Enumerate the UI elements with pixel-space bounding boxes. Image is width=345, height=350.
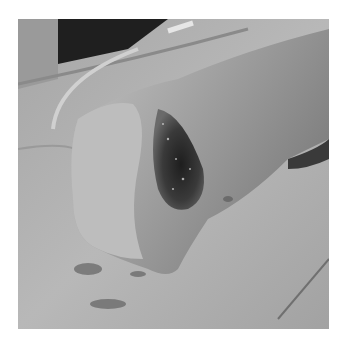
photo-illustration bbox=[18, 19, 329, 329]
clinical-photo bbox=[18, 19, 329, 329]
stump-flap bbox=[71, 103, 143, 259]
